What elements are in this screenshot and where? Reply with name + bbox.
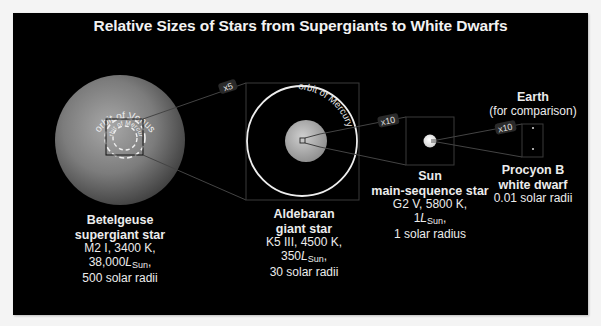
star-name: Procyon B: [494, 163, 573, 178]
magnification-tag-x10-procyon: x10: [494, 120, 517, 135]
star-name: Sun: [371, 169, 488, 184]
magnification-tag-x5: x5: [218, 79, 239, 95]
star-class: supergiant star: [75, 228, 165, 243]
magnification-tag-x10-sun: x10: [377, 113, 400, 128]
connector-line: [320, 147, 406, 165]
procyon-b-label: Procyon B white dwarf 0.01 solar radii: [494, 163, 573, 206]
star-name: Betelgeuse: [75, 213, 165, 228]
star-luminosity: 1LSun,: [371, 212, 488, 229]
star-radius: 1 solar radius: [371, 228, 488, 242]
star-class: main-sequence star: [371, 184, 488, 199]
star-radius: 0.01 solar radii: [494, 192, 573, 206]
earth-dot: [532, 127, 534, 129]
sun-label: Sun main-sequence star G2 V, 5800 K, 1LS…: [371, 169, 488, 242]
svg-text:x10: x10: [497, 122, 513, 135]
svg-text:x10: x10: [380, 115, 396, 128]
procyon-b-frame: [522, 124, 543, 157]
betelgeuse-star: orbit of Venus orbit of Mercury: [0, 0, 185, 205]
star-luminosity: 350LSun,: [266, 250, 342, 267]
connector-line: [437, 142, 522, 157]
star-spectral: K5 III, 4500 K,: [266, 236, 342, 250]
star-class: white dwarf: [494, 178, 573, 193]
star-spectral: G2 V, 5800 K,: [371, 198, 488, 212]
star-luminosity: 38,000LSun,: [75, 256, 165, 273]
aldebaran-label: Aldebaran giant star K5 III, 4500 K, 350…: [266, 207, 342, 280]
star-radius: 30 solar radii: [266, 266, 342, 280]
sun-star: [406, 117, 454, 165]
earth-note: (for comparison): [489, 105, 576, 119]
earth-label: Earth (for comparison): [489, 90, 576, 118]
aldebaran-star: orbit of Mercury: [246, 80, 359, 200]
betelgeuse-label: Betelgeuse supergiant star M2 I, 3400 K,…: [75, 213, 165, 286]
star-class: giant star: [266, 222, 342, 237]
star-spectral: M2 I, 3400 K,: [75, 242, 165, 256]
procyon-b-dot: [532, 148, 534, 150]
earth-name: Earth: [489, 90, 576, 105]
star-name: Aldebaran: [266, 207, 342, 222]
star-radius: 500 solar radii: [75, 272, 165, 286]
